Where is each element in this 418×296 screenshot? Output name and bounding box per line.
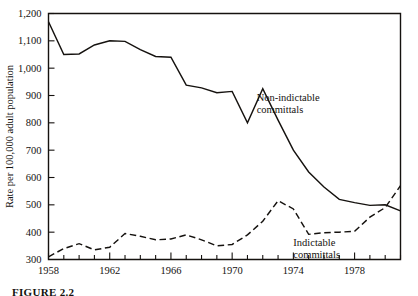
series-label: Non-indictable bbox=[257, 92, 320, 103]
series-line-non-indictable-committals bbox=[49, 22, 401, 211]
x-tick-label: 1978 bbox=[344, 265, 365, 276]
y-tick-label: 300 bbox=[26, 254, 42, 265]
tick-marks bbox=[49, 14, 401, 260]
x-tick-label: 1966 bbox=[160, 265, 181, 276]
series-label: committals bbox=[293, 249, 340, 260]
figure-container: 3004005006007008009001,0001,1001,200 195… bbox=[0, 0, 418, 296]
figure-caption: FIGURE 2.2 bbox=[12, 286, 74, 296]
x-tick-label: 1974 bbox=[283, 265, 305, 276]
series-line-indictable-committals bbox=[49, 186, 401, 257]
series-annotations: Non-indictablecommittalsIndictablecommit… bbox=[257, 92, 340, 260]
x-tick-label: 1962 bbox=[99, 265, 120, 276]
y-tick-label: 900 bbox=[26, 90, 42, 101]
y-tick-label: 500 bbox=[26, 199, 42, 210]
x-tick-label: 1958 bbox=[38, 265, 59, 276]
line-chart: 3004005006007008009001,0001,1001,200 195… bbox=[0, 0, 418, 296]
x-tick-label: 1970 bbox=[222, 265, 243, 276]
series-label: Indictable bbox=[293, 237, 335, 248]
x-axis-tick-labels: 195819621966197019741978 bbox=[38, 265, 365, 276]
y-tick-label: 400 bbox=[26, 227, 42, 238]
y-axis-title: Rate per 100,000 adult population bbox=[4, 64, 15, 208]
y-tick-label: 800 bbox=[26, 117, 42, 128]
y-tick-label: 1,100 bbox=[18, 35, 42, 46]
y-axis-tick-labels: 3004005006007008009001,0001,1001,200 bbox=[18, 8, 42, 265]
y-tick-label: 700 bbox=[26, 145, 42, 156]
y-tick-label: 1,200 bbox=[18, 8, 42, 19]
axis-frame bbox=[49, 14, 401, 260]
y-tick-label: 1,000 bbox=[18, 63, 42, 74]
y-tick-label: 600 bbox=[26, 172, 42, 183]
series-label: committals bbox=[257, 104, 304, 115]
